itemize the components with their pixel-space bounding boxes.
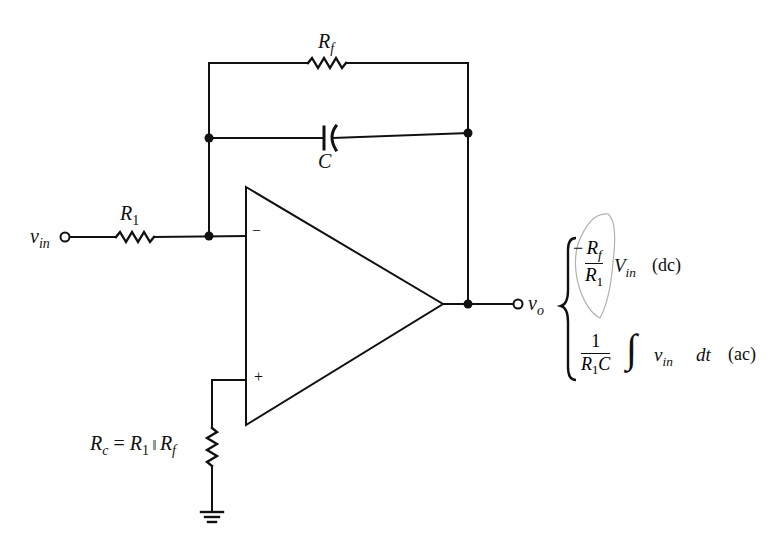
junction-dot	[205, 232, 214, 241]
fraction-denominator: R	[585, 264, 597, 285]
wire-noninverting	[212, 380, 246, 428]
dc-equation-tag: (dc)	[652, 255, 681, 276]
compensation-resistor-rc	[207, 428, 217, 466]
fraction-denominator-sub: 1	[597, 274, 604, 289]
label-main: R	[318, 30, 330, 52]
compensation-resistor-label: Rc = R1 ‖ Rf	[90, 432, 176, 459]
input-resistor-r1	[116, 232, 154, 242]
label-part: =	[108, 432, 129, 454]
wire-feedback-top	[209, 63, 308, 138]
dc-equation-variable: Vin	[614, 255, 636, 281]
label-part: R	[130, 432, 142, 454]
wire-cap-right	[333, 133, 468, 138]
feedback-resistor-label: Rf	[318, 30, 334, 57]
label-part: ‖	[149, 438, 160, 453]
output-terminal	[514, 300, 523, 309]
label-part: R	[90, 432, 102, 454]
junction-dot	[464, 300, 473, 309]
fraction-denominator-tail: C	[598, 354, 610, 374]
label-main: R	[120, 202, 132, 224]
label-sub: o	[537, 303, 544, 318]
feedback-resistor-rf	[308, 58, 346, 68]
label-part: R	[160, 432, 172, 454]
label-main: v	[528, 292, 537, 314]
inverting-input-sign: −	[252, 222, 261, 240]
output-terminal-label: vo	[528, 292, 544, 319]
input-resistor-label: R1	[120, 202, 139, 229]
op-amp-triangle	[246, 187, 443, 425]
fraction-denominator: R	[581, 354, 592, 374]
fraction-numerator: R	[586, 237, 598, 258]
variable-main: V	[614, 255, 626, 276]
dc-equation-sign: −	[573, 238, 583, 259]
ac-equation-tag: (ac)	[728, 344, 756, 365]
dc-gain-fraction: Rf R1	[585, 238, 603, 290]
variable-sub: in	[662, 354, 672, 369]
label-sub: 1	[132, 213, 139, 228]
ac-equation-variable: vin	[654, 344, 673, 370]
capacitor-label: C	[318, 150, 331, 173]
junction-dot	[205, 134, 214, 143]
label-sub: in	[39, 236, 50, 251]
circuit-schematic	[0, 0, 774, 556]
variable-sub: in	[626, 265, 636, 280]
fraction-numerator-sub: f	[598, 247, 602, 262]
ac-gain-fraction: 1 R1C	[581, 332, 610, 378]
label-part: 1	[142, 443, 149, 458]
noninverting-input-sign: +	[254, 368, 263, 386]
ground-icon	[201, 512, 223, 522]
fraction-numerator: 1	[581, 332, 610, 352]
integral-sign: ∫	[626, 325, 637, 372]
junction-dot	[464, 129, 473, 138]
ac-equation-differential: dt	[696, 344, 711, 366]
label-sub: f	[330, 41, 334, 56]
input-terminal-label: vin	[30, 225, 50, 252]
label-main: v	[30, 225, 39, 247]
wire-input-right	[154, 236, 246, 237]
wire-feedback-top-right	[346, 63, 468, 133]
equation-brace	[561, 238, 576, 380]
input-terminal	[61, 233, 70, 242]
label-part: f	[172, 443, 176, 458]
